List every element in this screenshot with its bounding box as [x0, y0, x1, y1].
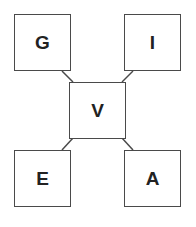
node-v-label: V	[91, 100, 104, 122]
node-e: E	[14, 150, 71, 207]
node-v: V	[69, 82, 126, 139]
edge-a-v	[122, 138, 133, 150]
node-a: A	[124, 150, 181, 207]
edge-g-v	[62, 71, 73, 82]
node-i-label: I	[150, 32, 155, 54]
edge-i-v	[122, 71, 133, 82]
node-g: G	[14, 14, 71, 71]
node-g-label: G	[35, 32, 50, 54]
node-e-label: E	[36, 168, 49, 190]
node-i: I	[124, 14, 181, 71]
node-a-label: A	[146, 168, 160, 190]
edge-e-v	[62, 138, 73, 150]
